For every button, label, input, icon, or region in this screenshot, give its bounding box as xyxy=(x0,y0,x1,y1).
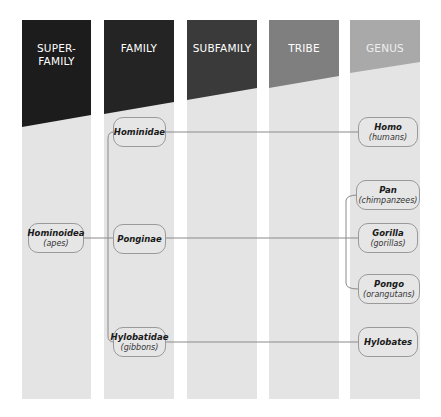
node-homo[interactable]: Homo (humans) xyxy=(358,117,418,147)
node-hylobates[interactable]: Hylobates xyxy=(358,327,418,357)
header-superfamily-shape xyxy=(22,20,91,127)
node-pan-name: Pan xyxy=(379,185,396,196)
node-homo-common: (humans) xyxy=(369,133,407,143)
node-hylobatidae-common: (gibbons) xyxy=(121,343,159,353)
node-pan-common: (chimpanzees) xyxy=(359,196,418,206)
node-gorilla[interactable]: Gorilla (gorillas) xyxy=(358,223,418,253)
header-superfamily-line2: FAMILY xyxy=(22,55,91,68)
header-subfamily-shape xyxy=(187,20,257,100)
node-pan[interactable]: Pan (chimpanzees) xyxy=(356,180,420,210)
node-gorilla-name: Gorilla xyxy=(372,228,404,239)
node-hylobatidae-name: Hylobatidae xyxy=(111,332,169,343)
header-genus-label: GENUS xyxy=(350,42,420,55)
node-homo-name: Homo xyxy=(374,122,402,133)
node-hylobates-name: Hylobates xyxy=(364,337,412,348)
node-gorilla-common: (gorillas) xyxy=(370,239,405,249)
header-family-shape xyxy=(104,20,174,114)
header-family-label: FAMILY xyxy=(104,42,174,55)
node-ponginae[interactable]: Ponginae xyxy=(113,224,166,254)
node-hominoidea-name: Hominoidea xyxy=(27,228,84,239)
header-subfamily-label: SUBFAMILY xyxy=(187,42,257,55)
node-hylobatidae[interactable]: Hylobatidae (gibbons) xyxy=(113,327,166,357)
header-tribe-label: TRIBE xyxy=(269,42,339,55)
node-ponginae-name: Ponginae xyxy=(117,234,162,245)
node-pongo[interactable]: Pongo (orangutans) xyxy=(358,274,420,304)
node-hominoidea[interactable]: Hominoidea (apes) xyxy=(28,223,84,253)
node-pongo-name: Pongo xyxy=(374,279,404,290)
node-hominidae[interactable]: Hominidae xyxy=(113,117,166,147)
node-hominoidea-common: (apes) xyxy=(43,239,68,249)
node-pongo-common: (orangutans) xyxy=(363,290,415,300)
node-hominidae-name: Hominidae xyxy=(114,127,165,138)
header-superfamily-line1: SUPER- xyxy=(22,42,91,55)
